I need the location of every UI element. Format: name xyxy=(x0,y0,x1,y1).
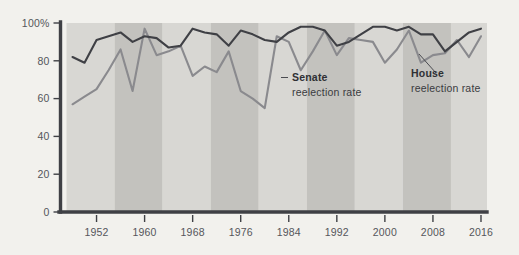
year-band xyxy=(211,23,259,212)
house-annotation-title: House xyxy=(411,67,444,79)
x-tick-label: 1984 xyxy=(277,226,301,238)
y-tick-label: 100% xyxy=(22,17,50,29)
x-tick-label: 2008 xyxy=(421,226,445,238)
x-tick-label: 2000 xyxy=(373,226,397,238)
x-tick-label: 1952 xyxy=(84,226,108,238)
chart-canvas: 020406080100% 19521960196819761984199220… xyxy=(0,0,519,255)
x-tick-label: 2016 xyxy=(469,226,493,238)
alternating-year-bands xyxy=(67,23,487,212)
year-band xyxy=(451,23,487,212)
x-tick-label: 1968 xyxy=(181,226,205,238)
y-tick-label: 20 xyxy=(37,168,49,180)
y-tick-label: 0 xyxy=(43,206,49,218)
house-annotation-subtitle: reelection rate xyxy=(411,82,481,94)
reelection-rate-chart: 020406080100% 19521960196819761984199220… xyxy=(0,0,519,255)
senate-annotation-title: Senate xyxy=(292,71,328,83)
x-tick-label: 1976 xyxy=(229,226,253,238)
y-tick-label: 60 xyxy=(37,92,49,104)
senate-annotation-subtitle: reelection rate xyxy=(292,86,362,98)
x-tick-label: 1960 xyxy=(133,226,157,238)
x-tick-label: 1992 xyxy=(325,226,349,238)
y-tick-label: 80 xyxy=(37,55,49,67)
y-tick-label: 40 xyxy=(37,130,49,142)
year-band xyxy=(259,23,307,212)
